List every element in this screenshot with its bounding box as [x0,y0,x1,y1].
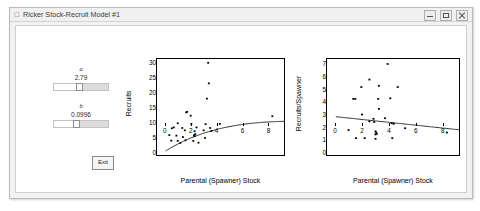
application-window: ▢ Ricker Stock-Recruit Model #1 a 2.79 [9,7,473,199]
data-point [372,118,374,120]
x-axis-tick-label: 6 [414,127,418,134]
data-point [205,123,207,125]
x-axis-tick-mark [268,123,269,126]
screen-root: ▢ Ricker Stock-Recruit Model #1 a 2.79 [0,0,480,211]
parameter-a-slider-thumb[interactable] [76,83,83,91]
x-axis-tick-label: 0 [163,127,167,134]
data-point [170,140,172,142]
recruits-plot-xlabel: Parental (Spawner) Stock [156,177,285,184]
recruits-per-spawner-plot-xlabel: Parental (Spawner) Stock [326,177,460,184]
y-axis-tick-label: 7 [304,60,326,67]
parameter-b-slider-fill [54,121,73,127]
recruits-plot-canvas [157,59,284,155]
parameter-controls: a 2.79 b 0.0996 Exit [36,64,126,174]
y-axis-tick-label: 10 [134,119,156,126]
parameter-b-group: b 0.0996 [36,101,126,128]
x-axis-tick-mark [165,123,166,126]
x-axis-tick-mark [416,123,417,126]
data-point [373,121,375,123]
y-axis-tick-label: 30 [134,59,156,66]
window-title: Ricker Stock-Recruit Model #1 [23,10,120,20]
recruits-per-spawner-plot-yticks: 01234567 [304,58,326,156]
data-point [374,138,376,140]
exit-button-wrap: Exit [92,156,114,170]
x-axis-tick-mark [389,123,390,126]
x-axis-tick-label: 0 [333,127,337,134]
x-axis-tick-label: 2 [189,127,193,134]
data-point [271,115,273,117]
x-axis-tick-mark [335,123,336,126]
client-area: a 2.79 b 0.0996 Exit [15,25,467,193]
data-point [377,98,379,100]
x-axis-tick-label: 8 [441,127,445,134]
parameter-a-label: a [36,64,126,73]
y-axis-tick-label: 15 [134,104,156,111]
parameter-a-slider-fill [54,84,76,90]
x-axis-tick-label: 6 [241,127,245,134]
data-point [368,120,370,122]
data-point [198,142,200,144]
parameter-b-slider[interactable] [53,120,109,128]
window-controls [424,10,468,20]
recruits-plot: 051015202530 02468 Recruits Parental (Sp… [124,50,289,190]
x-axis-tick-label: 2 [360,127,364,134]
recruits-per-spawner-plot-xticks: 02468 [327,127,459,137]
close-button[interactable] [456,10,468,21]
x-axis-tick-mark [243,123,244,126]
recruits-per-spawner-plot-axes: 02468 [326,58,460,156]
y-axis-tick-label: 6 [304,72,326,79]
y-axis-tick-label: 1 [304,136,326,143]
matlab-figure-icon: ▢ [14,11,21,18]
y-axis-tick-label: 0 [134,149,156,156]
x-axis-tick-label: 4 [215,127,219,134]
recruits-plot-yticks: 051015202530 [134,58,156,156]
x-axis-tick-mark [191,123,192,126]
data-point [186,111,188,113]
recruits-per-spawner-plot-canvas [327,59,459,155]
data-point [206,98,208,100]
data-point [207,62,209,64]
y-axis-tick-label: 3 [304,111,326,118]
data-point [389,97,391,99]
data-point [219,123,221,125]
x-axis-tick-mark [217,123,218,126]
recruits-per-spawner-plot-ylabel: Recruits/Spawner [296,75,303,130]
parameter-a-value: 2.79 [36,73,126,82]
recruits-per-spawner-plot-ylabel-wrap: Recruits/Spawner [293,50,305,156]
data-point [391,137,393,139]
minimize-button[interactable] [424,10,436,21]
y-axis-tick-label: 5 [304,85,326,92]
data-point [384,117,386,119]
recruits-plot-xticks: 02468 [157,127,284,137]
data-point [355,137,357,139]
data-point [387,63,389,65]
parameter-a-slider[interactable] [53,83,109,91]
data-point [368,79,370,81]
y-axis-tick-label: 20 [134,89,156,96]
x-axis-tick-label: 8 [267,127,271,134]
recruits-plot-axes: 02468 [156,58,285,156]
data-point [204,137,206,139]
data-point [397,86,399,88]
x-axis-tick-mark [443,123,444,126]
parameter-a-group: a 2.79 [36,64,126,91]
data-point [361,114,363,116]
y-axis-tick-label: 25 [134,74,156,81]
data-point [208,83,210,85]
recruits-per-spawner-plot: 01234567 02468 Recruits/Spawner Parental… [294,50,464,190]
maximize-button[interactable] [440,10,452,21]
data-point [378,85,380,87]
exit-button[interactable]: Exit [92,156,114,170]
data-point [352,98,354,100]
x-axis-tick-label: 4 [387,127,391,134]
x-axis-tick-mark [362,123,363,126]
y-axis-tick-label: 0 [304,149,326,156]
data-point [354,98,356,100]
data-point [360,86,362,88]
title-bar[interactable]: ▢ Ricker Stock-Recruit Model #1 [10,8,472,22]
parameter-b-label: b [36,101,126,110]
recruits-plot-ylabel-wrap: Recruits [123,50,135,156]
data-point [177,122,179,124]
parameter-b-slider-thumb[interactable] [73,120,80,128]
recruits-plot-ylabel: Recruits [126,90,133,116]
